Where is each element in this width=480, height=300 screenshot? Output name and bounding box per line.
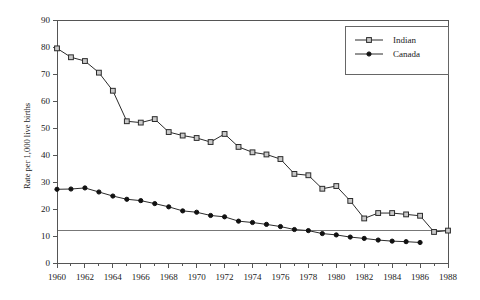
x-tick-label: 1974 (244, 272, 263, 282)
data-point (278, 157, 283, 162)
data-point (264, 152, 269, 157)
x-tick-label: 1964 (104, 272, 123, 282)
y-axis: 0102030405060708090 (41, 15, 57, 268)
data-point (195, 210, 199, 214)
data-point (348, 235, 352, 239)
data-point (180, 133, 185, 138)
x-tick-label: 1988 (439, 272, 458, 282)
data-point (139, 199, 143, 203)
data-point (167, 205, 171, 209)
data-point (166, 130, 171, 135)
data-point (250, 150, 255, 155)
data-point (236, 145, 241, 150)
data-point (222, 215, 226, 219)
data-point (250, 220, 254, 224)
x-tick-label: 1982 (355, 272, 373, 282)
x-axis: 1960196219641966196819701972197419761978… (48, 263, 458, 282)
legend-label: Canada (393, 49, 420, 59)
data-point (110, 88, 115, 93)
data-point (55, 46, 60, 51)
x-tick-label: 1968 (160, 272, 179, 282)
y-tick-label: 10 (41, 231, 51, 241)
y-tick-label: 40 (41, 150, 51, 160)
data-point (97, 190, 101, 194)
x-tick-label: 1976 (271, 272, 290, 282)
data-point (320, 231, 324, 235)
data-point (418, 213, 423, 218)
y-tick-label: 60 (41, 96, 51, 106)
data-point (292, 172, 297, 177)
data-point (152, 117, 157, 122)
line-chart: 0102030405060708090 19601962196419661968… (0, 0, 480, 300)
x-tick-label: 1980 (327, 272, 346, 282)
x-tick-label: 1986 (411, 272, 430, 282)
data-point (55, 187, 59, 191)
x-tick-label: 1972 (216, 272, 234, 282)
data-point (194, 136, 199, 141)
data-point (264, 222, 268, 226)
data-point (404, 240, 408, 244)
x-tick-label: 1970 (188, 272, 207, 282)
data-point (209, 213, 213, 217)
data-point (348, 199, 353, 204)
x-tick-label: 1960 (48, 272, 67, 282)
data-point (83, 186, 87, 190)
data-point (292, 227, 296, 231)
data-point (83, 59, 88, 64)
data-point (376, 211, 381, 216)
data-point (181, 209, 185, 213)
data-point (306, 173, 311, 178)
x-tick-label: 1984 (383, 272, 402, 282)
y-tick-label: 20 (41, 204, 51, 214)
data-point (362, 216, 367, 221)
x-tick-label: 1962 (76, 272, 94, 282)
x-tick-label: 1966 (132, 272, 151, 282)
data-point (390, 239, 394, 243)
data-point (446, 228, 451, 233)
data-point (125, 197, 129, 201)
data-point (138, 120, 143, 125)
data-point (362, 236, 366, 240)
data-point (334, 233, 338, 237)
data-point (418, 240, 422, 244)
y-axis-title: Rate per 1,000 live births (22, 103, 32, 189)
data-point (278, 224, 282, 228)
data-point (222, 132, 227, 137)
data-point (404, 212, 409, 217)
data-series-layer (55, 46, 451, 245)
data-point (69, 187, 73, 191)
data-point (153, 202, 157, 206)
data-point (390, 211, 395, 216)
data-point (320, 186, 325, 191)
data-point (432, 230, 437, 235)
data-point (334, 184, 339, 189)
data-point (69, 55, 74, 60)
data-point (376, 238, 380, 242)
data-point (111, 194, 115, 198)
data-point (124, 119, 129, 124)
chart-container: 0102030405060708090 19601962196419661968… (0, 0, 480, 300)
y-tick-label: 0 (46, 258, 51, 268)
data-point (96, 70, 101, 75)
series-canada (55, 186, 422, 245)
y-tick-label: 30 (41, 177, 51, 187)
data-point (306, 229, 310, 233)
y-tick-label: 90 (41, 15, 51, 25)
x-tick-label: 1978 (299, 272, 318, 282)
chart-legend: IndianCanada (345, 26, 448, 74)
y-tick-label: 80 (41, 42, 51, 52)
data-point (236, 219, 240, 223)
data-point (208, 140, 213, 145)
y-tick-label: 70 (41, 69, 51, 79)
y-tick-label: 50 (41, 123, 51, 133)
legend-label: Indian (393, 35, 416, 45)
